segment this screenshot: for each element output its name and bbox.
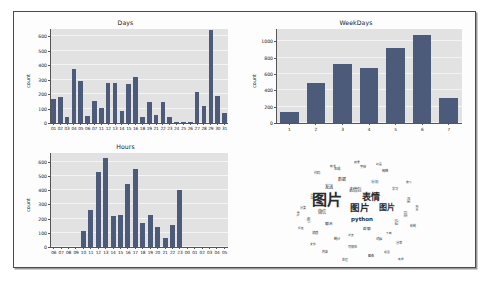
bar-slot (198, 153, 205, 247)
x-tick-mark (201, 123, 208, 125)
y-tick-label: 400 (264, 88, 273, 93)
bar (85, 116, 90, 123)
days-x-tick-marks (50, 123, 228, 125)
x-tick-label: 06 (50, 250, 57, 255)
x-tick-mark (221, 247, 228, 249)
x-tick-label: 17 (132, 250, 139, 255)
wordcloud-word: python (351, 217, 373, 223)
bar (202, 106, 207, 123)
wordcloud-word: 表情包 (349, 188, 361, 193)
wordcloud-word: 代码 (314, 172, 320, 175)
x-tick-label: 07 (57, 250, 64, 255)
y-tick-label: 1000 (261, 39, 273, 44)
bar-slot (221, 153, 228, 247)
x-tick-mark (176, 247, 183, 249)
wordcloud-word: 地址 (296, 211, 299, 217)
x-tick-label: 10 (80, 250, 87, 255)
x-tick-mark (161, 247, 168, 249)
wordcloud-word: 输出 (416, 205, 419, 211)
x-tick-label: 15 (125, 126, 132, 131)
x-tick-mark (87, 247, 94, 249)
y-tick-label: 100 (38, 106, 47, 111)
x-tick-mark (132, 123, 139, 125)
x-tick-mark (50, 123, 57, 125)
wordcloud-word: 转发 (330, 165, 336, 168)
x-tick-mark (303, 123, 330, 125)
bar-slot (214, 29, 221, 123)
bar-slot (125, 29, 132, 123)
x-tick-mark (117, 247, 124, 249)
bar-slot (221, 29, 228, 123)
wordcloud-word: 标签 (298, 227, 304, 230)
y-tick-label: 500 (38, 173, 47, 178)
wordcloud-word: 表情 (362, 193, 380, 202)
bar-slot (382, 29, 409, 123)
wordcloud-word: 网络 (382, 170, 388, 173)
bar-slot (213, 153, 220, 247)
x-tick-mark (435, 123, 462, 125)
bar (161, 102, 166, 123)
x-tick-mark (98, 123, 105, 125)
x-tick-label: 03 (64, 126, 71, 131)
wordcloud-word: 图片 (350, 203, 370, 213)
x-tick-mark (71, 123, 78, 125)
wordcloud-word: 好友 (402, 211, 405, 217)
bar-slot (276, 29, 303, 123)
x-tick-mark (206, 247, 213, 249)
y-tick-label: 0 (44, 245, 47, 250)
wordcloud-word: 浏览 (348, 235, 354, 238)
bar-slot (329, 29, 356, 123)
wordcloud-word: 字体 (360, 166, 366, 169)
x-tick-mark (194, 123, 201, 125)
bar (148, 215, 153, 247)
wordcloud-word: 记录 (393, 219, 396, 225)
wordcloud-word: 分类 (300, 207, 306, 210)
bar (96, 172, 101, 247)
wordcloud-word: 消息 (312, 232, 318, 236)
bar (163, 238, 168, 247)
bar (72, 69, 77, 123)
x-tick-mark (180, 123, 187, 125)
bar-slot (139, 153, 146, 247)
y-tick-mark (48, 51, 50, 52)
wordcloud-word: 分享 (396, 242, 402, 245)
bar-slot (91, 29, 98, 123)
bar-slot (409, 29, 436, 123)
x-tick-mark (77, 123, 84, 125)
weekdays-plot-area (276, 29, 462, 123)
x-tick-mark (160, 123, 167, 125)
hours-y-axis-label: count (25, 190, 31, 220)
x-tick-mark (191, 247, 198, 249)
x-tick-label: 08 (65, 250, 72, 255)
y-tick-mark (274, 58, 276, 59)
bar (133, 77, 138, 123)
bar (386, 48, 405, 123)
bar-slot (303, 29, 330, 123)
bar (307, 83, 326, 123)
bar (413, 35, 432, 123)
y-tick-label: 800 (264, 55, 273, 60)
wordcloud-word: 词云 (376, 238, 382, 242)
bar-slot (102, 153, 109, 247)
bar-slot (77, 29, 84, 123)
x-tick-label: 3 (329, 127, 356, 132)
hours-chart-title: Hours (18, 143, 233, 150)
wordcloud-word: 图片 (379, 204, 395, 212)
y-tick-mark (48, 80, 50, 81)
x-tick-label: 30 (214, 126, 221, 131)
bar-slot (71, 29, 78, 123)
y-tick-label: 300 (38, 202, 47, 207)
x-tick-label: 12 (105, 126, 112, 131)
wordcloud-word: 封面 (376, 163, 382, 166)
y-tick-label: 300 (38, 77, 47, 82)
x-tick-label: 20 (154, 250, 161, 255)
x-tick-mark (64, 123, 71, 125)
bar-slot (154, 153, 161, 247)
wordcloud-word: 内容 (322, 251, 328, 254)
x-tick-mark (146, 123, 153, 125)
y-tick-label: 500 (38, 48, 47, 53)
x-tick-label: 19 (146, 126, 153, 131)
bar (215, 96, 220, 123)
x-tick-mark (139, 247, 146, 249)
bar-slot (57, 29, 64, 123)
